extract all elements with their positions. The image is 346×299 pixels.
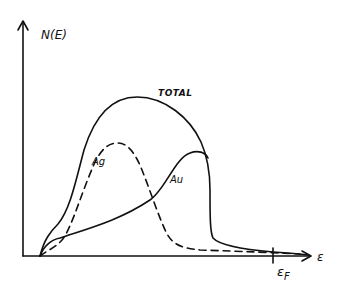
- fermi-symbol: ε: [277, 264, 284, 279]
- ag-curve: [40, 143, 300, 256]
- ag-curve-label: Ag: [92, 156, 105, 167]
- dos-diagram: [0, 0, 346, 299]
- fermi-level-label: εF: [277, 264, 290, 282]
- x-axis-label: ε: [317, 250, 324, 264]
- y-axis-label: N(E): [41, 28, 67, 42]
- fermi-subscript: F: [284, 271, 290, 282]
- au-curve: [40, 152, 208, 256]
- total-curve-label: TOTAL: [158, 88, 192, 98]
- au-curve-label: Au: [170, 174, 183, 185]
